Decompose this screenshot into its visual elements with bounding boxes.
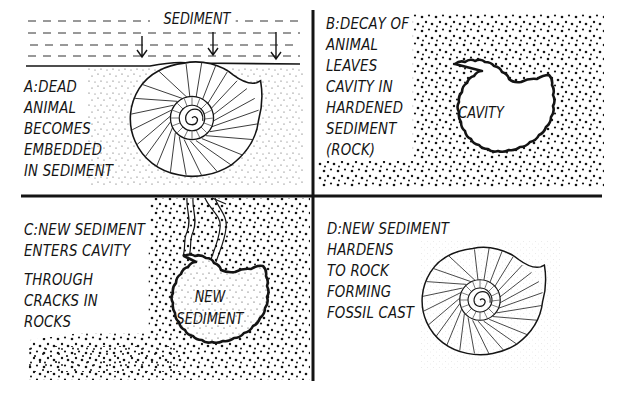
inner-label-line: NEW <box>176 286 245 308</box>
caption-line: A:DEAD <box>24 77 113 98</box>
caption-line: TO ROCK <box>327 261 449 282</box>
caption-line: IN SEDIMENT <box>24 161 113 182</box>
caption-line: CRACKS IN <box>24 291 145 312</box>
caption-line: ROCKS <box>24 312 145 333</box>
caption-line: HARDENED <box>326 98 409 119</box>
caption-line: HARDENS <box>327 240 449 261</box>
panel-c-caption: C:NEW SEDIMENT ENTERS CAVITY THROUGH CRA… <box>24 220 149 333</box>
caption-line: SEDIMENT <box>326 119 409 140</box>
caption-line: EMBEDDED <box>24 140 113 161</box>
caption-line: LEAVES <box>326 56 409 77</box>
caption-line: (ROCK) <box>326 140 409 161</box>
caption-line: ENTERS CAVITY <box>24 241 145 262</box>
new-sediment-label: NEW SEDIMENT <box>176 286 245 330</box>
caption-line: B:DECAY OF <box>326 14 409 35</box>
cavity-label: CAVITY <box>451 104 511 122</box>
caption-line: C:NEW SEDIMENT <box>24 220 145 241</box>
caption-line: CAVITY IN <box>326 77 409 98</box>
caption-line: ANIMAL <box>326 35 409 56</box>
fossil-formation-diagram: SEDIMENT A:DEAD ANIMAL BECOMES EMBEDDED … <box>0 0 622 393</box>
sediment-label: SEDIMENT <box>158 10 235 28</box>
panel-a-caption: A:DEAD ANIMAL BECOMES EMBEDDED IN SEDIME… <box>24 77 113 182</box>
diagram-artwork <box>0 0 622 393</box>
panel-b-caption: B:DECAY OF ANIMAL LEAVES CAVITY IN HARDE… <box>326 14 412 161</box>
caption-line: FORMING <box>327 282 449 303</box>
caption-line: D:NEW SEDIMENT <box>327 219 449 240</box>
caption-line: FOSSIL CAST <box>327 303 449 324</box>
caption-line: BECOMES <box>24 119 113 140</box>
caption-line: ANIMAL <box>24 98 113 119</box>
inner-label-line: SEDIMENT <box>176 308 245 330</box>
caption-line: THROUGH <box>24 270 145 291</box>
panel-d-caption: D:NEW SEDIMENT HARDENS TO ROCK FORMING F… <box>327 219 449 324</box>
